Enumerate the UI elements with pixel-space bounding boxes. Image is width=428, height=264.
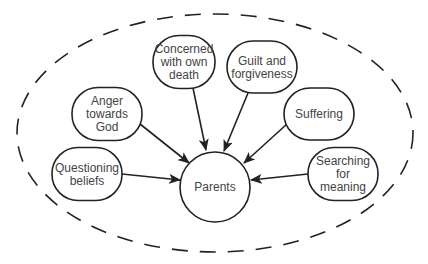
node-questioning-beliefs[interactable]: Questioningbeliefs (52, 148, 122, 201)
anger-towards-god-label-line: Anger (91, 94, 123, 108)
anger-towards-god-label-line: towards (86, 107, 128, 121)
questioning-beliefs-label-line: Questioning (55, 161, 119, 175)
arrow-suffering-to-parents (244, 124, 287, 163)
node-searching-for-meaning[interactable]: Searchingformeaning (308, 148, 378, 201)
node-guilt-and-forgiveness[interactable]: Guilt andforgiveness (227, 41, 297, 93)
guilt-and-forgiveness-label-line: forgiveness (231, 67, 292, 81)
node-concerned-with-own-death[interactable]: Concernedwith owndeath (153, 36, 215, 89)
arrow-guilt-and-forgiveness-to-parents (224, 93, 248, 151)
center-node-parents[interactable]: Parents (180, 152, 250, 222)
searching-for-meaning-label-line: Searching (316, 154, 370, 168)
searching-for-meaning-label-line: for (336, 167, 350, 181)
parents-label: Parents (194, 180, 235, 194)
questioning-beliefs-label-line: beliefs (70, 174, 105, 188)
arrow-anger-towards-god-to-parents (140, 124, 189, 163)
node-anger-towards-god[interactable]: AngertowardsGod (72, 88, 142, 141)
searching-for-meaning-label-line: meaning (320, 180, 366, 194)
guilt-and-forgiveness-label-line: Guilt and (238, 54, 286, 68)
anger-towards-god-label-line: God (96, 120, 119, 134)
concerned-with-own-death-label-line: death (169, 68, 199, 82)
concerned-with-own-death-label-line: Concerned (155, 42, 214, 56)
arrow-concerned-with-own-death-to-parents (193, 88, 206, 150)
node-suffering[interactable]: Suffering (284, 88, 354, 140)
suffering-label-line: Suffering (295, 107, 343, 121)
concerned-with-own-death-label-line: with own (160, 55, 208, 69)
arrow-questioning-beliefs-to-parents (122, 174, 180, 180)
arrow-searching-for-meaning-to-parents (251, 174, 308, 180)
diagram-canvas: QuestioningbeliefsAngertowardsGodConcern… (0, 0, 428, 264)
